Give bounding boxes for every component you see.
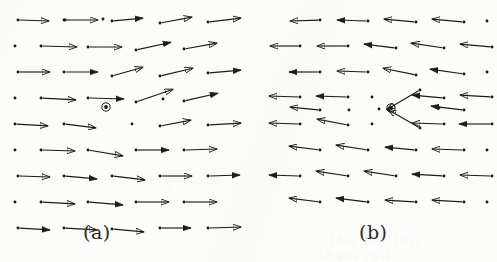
field-vector-a (17, 124, 48, 126)
vector-tail-dot (207, 124, 210, 127)
vector-tail-dot (299, 123, 302, 126)
vector-tail-dot (486, 149, 489, 152)
field-vector-a (114, 18, 143, 21)
vector-tail-dot (367, 149, 370, 152)
vector-tail-dot (486, 71, 489, 74)
vector-tail-dot (491, 175, 494, 178)
vector-tail-dot (159, 125, 162, 128)
vector-tail-dot (463, 73, 466, 76)
vector-tail-dot (367, 71, 370, 74)
vector-tail-dot (159, 227, 162, 230)
field-vector-b (269, 175, 298, 176)
vector-tail-dot (162, 98, 165, 101)
field-vector-a (43, 202, 75, 204)
vector-tail-dot (443, 123, 446, 126)
vector-tail-dot (347, 124, 350, 127)
vector-tail-dot (371, 123, 374, 126)
field-vector-b (337, 20, 366, 21)
vector-tail-dot (87, 46, 90, 49)
field-vector-b (430, 69, 462, 74)
field-vector-b (460, 175, 490, 176)
vector-tail-dot (443, 47, 446, 50)
vector-tail-dot (419, 127, 422, 130)
figure-root: (a) (b) the motion observed (0, 0, 497, 262)
vector-tail-dot (135, 101, 138, 104)
vector-tail-dot (207, 175, 210, 178)
field-vector-b (317, 119, 346, 125)
vector-tail-dot (159, 175, 162, 178)
vector-tail-dot (111, 228, 114, 231)
vector-tail-dot (419, 89, 422, 92)
vector-tail-dot (63, 175, 66, 178)
field-vector-b (289, 198, 318, 202)
field-vector-b (460, 44, 490, 47)
vector-tail-dot (319, 19, 322, 22)
vector-tail-dot (347, 45, 350, 48)
field-vector-a (90, 202, 123, 205)
field-vector-a (90, 98, 124, 99)
vector-tail-dot (17, 71, 20, 74)
vector-tail-dot (87, 97, 90, 100)
field-vector-a (43, 98, 76, 100)
field-vector-b (336, 145, 366, 150)
field-vector-b (316, 96, 346, 97)
field-vector-a (20, 228, 50, 230)
vector-tail-dot (463, 21, 466, 24)
vector-tail-dot (486, 20, 489, 23)
field-vector-b (385, 200, 414, 202)
vector-tail-dot (319, 149, 322, 152)
vector-tail-dot (463, 109, 466, 112)
vector-tail-dot (17, 175, 20, 178)
vector-tail-dot (367, 201, 370, 204)
vector-tail-dot (443, 97, 446, 100)
field-vector-a (43, 150, 75, 151)
vector-tail-dot (183, 48, 186, 51)
vector-tail-dot (347, 175, 350, 178)
field-vector-b (384, 19, 414, 22)
field-vector-a (162, 120, 191, 126)
field-vector-a (138, 89, 174, 101)
field-vector-b (412, 174, 442, 176)
field-vector-a (114, 176, 145, 180)
vector-tail-dot (63, 19, 66, 22)
panel-a-vector-group (14, 17, 241, 232)
vector-tail-dot (17, 227, 20, 230)
field-vector-a (114, 229, 144, 232)
vector-tail-dot (415, 201, 418, 204)
vector-tail-dot (63, 123, 66, 126)
field-vector-a (162, 68, 193, 75)
field-vector-b (269, 96, 298, 97)
field-vector-a (20, 20, 49, 21)
field-vector-b (431, 106, 462, 110)
vector-tail-dot (14, 97, 17, 100)
vector-tail-dot (135, 201, 138, 204)
vector-tail-dot (463, 201, 466, 204)
field-vector-a (186, 149, 217, 150)
vector-tail-dot (14, 201, 17, 204)
field-vector-a (162, 17, 192, 23)
vector-tail-dot (348, 109, 351, 112)
center-marker-group (102, 103, 395, 112)
field-vector-b (412, 123, 442, 124)
vector-tail-dot (135, 149, 138, 152)
field-vector-a (186, 93, 218, 100)
vector-tail-dot (63, 227, 66, 230)
vector-tail-dot (17, 19, 20, 22)
circled-dot-marker-core-b (389, 106, 393, 110)
vector-tail-dot (319, 71, 322, 74)
field-vector-b (411, 43, 442, 48)
vector-tail-dot (87, 201, 90, 204)
vector-tail-dot (395, 175, 398, 178)
vector-tail-dot (367, 20, 370, 23)
vector-tail-dot (371, 96, 374, 99)
vector-tail-dot (40, 97, 43, 100)
field-vector-a (90, 150, 123, 156)
vector-tail-dot (299, 45, 302, 48)
field-vector-a (210, 227, 241, 228)
field-vector-b (336, 198, 366, 202)
field-vector-a (114, 67, 143, 75)
vector-tail-dot (415, 74, 418, 77)
circled-dot-marker-core-a (104, 105, 108, 109)
vector-tail-dot (207, 227, 210, 230)
vector-tail-dot (183, 100, 186, 103)
